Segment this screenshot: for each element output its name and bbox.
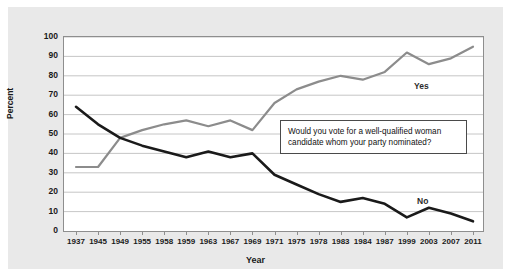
x-tick-mark xyxy=(98,231,99,235)
y-tick-label: 40 xyxy=(36,148,58,157)
y-tick-label: 60 xyxy=(36,110,58,119)
x-tick-mark xyxy=(451,231,452,235)
y-tick-label: 10 xyxy=(36,207,58,216)
figure: Percent 0102030405060708090100 193719451… xyxy=(0,0,511,277)
x-tick-mark xyxy=(407,231,408,235)
y-tick-label: 100 xyxy=(36,32,58,41)
x-tick-mark xyxy=(275,231,276,235)
x-tick-mark xyxy=(208,231,209,235)
x-tick-mark xyxy=(319,231,320,235)
x-tick-mark xyxy=(186,231,187,235)
y-axis-label: Percent xyxy=(5,88,15,119)
series-label-yes: Yes xyxy=(414,81,429,91)
x-tick-mark xyxy=(230,231,231,235)
y-tick-label: 80 xyxy=(36,71,58,80)
series-label-no: No xyxy=(417,196,428,206)
question-callout: Would you vote for a well-qualified woma… xyxy=(280,120,467,154)
x-axis-label: Year xyxy=(8,255,503,265)
y-tick-label: 0 xyxy=(36,226,58,235)
chart-panel: Percent 0102030405060708090100 193719451… xyxy=(8,7,503,269)
x-tick-mark xyxy=(164,231,165,235)
x-tick-mark xyxy=(297,231,298,235)
y-tick-label: 90 xyxy=(36,51,58,60)
x-tick-mark xyxy=(120,231,121,235)
y-tick-label: 30 xyxy=(36,168,58,177)
x-tick-mark xyxy=(429,231,430,235)
x-tick-mark xyxy=(142,231,143,235)
x-tick-mark xyxy=(385,231,386,235)
x-tick-mark xyxy=(473,231,474,235)
y-tick-label: 70 xyxy=(36,90,58,99)
x-tick-mark xyxy=(341,231,342,235)
x-tick-label: 2011 xyxy=(458,238,488,246)
x-tick-mark xyxy=(252,231,253,235)
y-tick-label: 50 xyxy=(36,129,58,138)
x-tick-mark xyxy=(363,231,364,235)
x-tick-mark xyxy=(76,231,77,235)
y-tick-label: 20 xyxy=(36,187,58,196)
